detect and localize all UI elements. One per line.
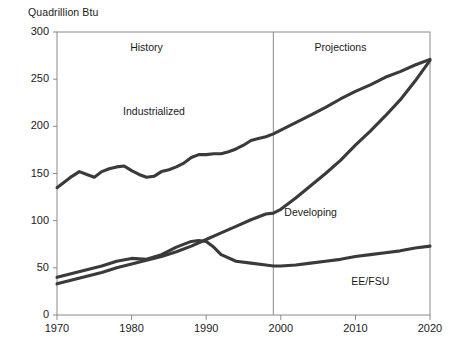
chart-annotation-label: Projections: [314, 41, 366, 53]
chart-container: Quadrillion Btu 050100150200250300 19701…: [0, 0, 454, 348]
chart-plot-area: [0, 0, 454, 348]
y-tick-label: 50: [15, 261, 49, 273]
plot-frame: [57, 32, 430, 315]
data-series-group: [57, 59, 430, 284]
y-tick-label: 200: [15, 119, 49, 131]
x-tick-label: 2000: [261, 322, 301, 334]
x-tick-label: 1970: [37, 322, 77, 334]
chart-annotation-label: Developing: [284, 206, 337, 218]
chart-annotation-label: Industrialized: [123, 105, 185, 117]
y-tick-label: 100: [15, 214, 49, 226]
x-tick-label: 2020: [410, 322, 450, 334]
chart-annotation-label: History: [130, 41, 163, 53]
y-tick-label: 0: [15, 308, 49, 320]
y-tick-label: 300: [15, 25, 49, 37]
x-tick-label: 1980: [112, 322, 152, 334]
chart-annotation-label: EE/FSU: [351, 275, 389, 287]
x-tick-label: 1990: [186, 322, 226, 334]
y-tick-label: 150: [15, 167, 49, 179]
x-tick-label: 2010: [335, 322, 375, 334]
y-tick-label: 250: [15, 72, 49, 84]
